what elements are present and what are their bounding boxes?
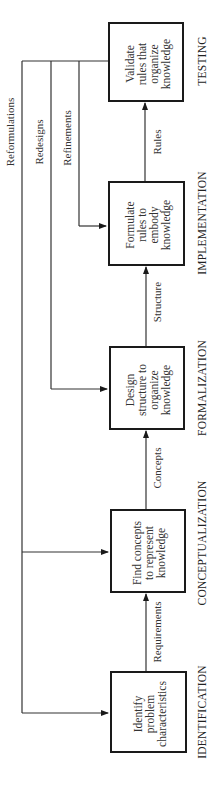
conceptualization-box-text: Find concepts to represent knowledge	[131, 521, 167, 585]
implementation-box-text: Formulate rules to embody knowledge	[124, 200, 172, 250]
feedback-label-refinements: Refinements	[62, 110, 74, 166]
phase-label-conceptualization: CONCEPTUALIZATION	[196, 481, 208, 606]
flow-label-concepts: Concepts	[152, 448, 164, 489]
implementation-box: Formulate rules to embody knowledge	[108, 181, 185, 266]
box-line: rules that	[136, 39, 148, 89]
feedback-label-reformulations: Reformulations	[5, 98, 17, 166]
feedback-label-redesigns: Redesigns	[34, 119, 46, 164]
flow-label-rules: Rules	[152, 129, 164, 154]
knowledge-acquisition-diagram: Validate rules that organize knowledge F…	[0, 0, 218, 790]
box-line: organize	[148, 39, 160, 89]
box-line: rules to	[136, 200, 148, 250]
testing-box-text: Validate rules that organize knowledge	[124, 39, 172, 89]
phase-label-implementation: IMPLEMENTATION	[196, 171, 208, 274]
box-line: characteristics	[156, 681, 168, 747]
box-line: structure to	[136, 364, 148, 416]
conceptualization-box: Find concepts to represent knowledge	[110, 509, 186, 593]
identification-box-text: Identify problem characteristics	[132, 681, 168, 747]
box-line: to represent	[143, 521, 155, 585]
box-line: Identify	[132, 681, 144, 747]
phase-label-formalization: FORMALIZATION	[196, 340, 208, 436]
formalization-box-text: Design structure to organize knowledge	[124, 364, 172, 416]
box-line: knowledge	[155, 521, 167, 585]
box-line: organize	[148, 364, 160, 416]
box-line: Design	[124, 364, 136, 416]
box-line: knowledge	[160, 39, 172, 89]
box-line: problem	[144, 681, 156, 747]
phase-label-identification: IDENTIFICATION	[196, 665, 208, 759]
testing-box: Validate rules that organize knowledge	[108, 22, 184, 102]
box-line: Find concepts	[131, 521, 143, 585]
box-line: knowledge	[160, 364, 172, 416]
box-line: knowledge	[160, 200, 172, 250]
formalization-box: Design structure to organize knowledge	[109, 346, 185, 430]
box-line: Validate	[124, 39, 136, 89]
flow-label-requirements: Requirements	[152, 601, 164, 662]
phase-label-testing: TESTING	[196, 36, 208, 85]
box-line: Formulate	[124, 200, 136, 250]
identification-box: Identify problem characteristics	[110, 671, 187, 753]
box-line: embody	[148, 200, 160, 250]
flow-label-structure: Structure	[152, 282, 164, 322]
